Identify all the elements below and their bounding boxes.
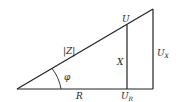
angle-label: φ [64,72,71,82]
impedance-triangle-diagram: |Z| φ R X U UR UX [0,0,176,102]
inner-vertical-label: X [116,57,124,67]
hypotenuse-line [17,9,153,89]
base-label: R [75,91,83,101]
base-bottom-label: UR [121,91,134,102]
outer-vertical-label: UX [157,48,170,59]
inner-top-label: U [122,14,130,24]
angle-arc [52,69,61,90]
hypotenuse-label: |Z| [63,46,75,57]
